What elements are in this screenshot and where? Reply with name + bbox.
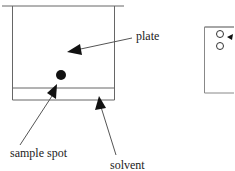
plate-arrow xyxy=(67,38,132,55)
developed-arrow-tip xyxy=(227,34,233,40)
developed-spot-1 xyxy=(217,31,224,38)
solvent-arrow xyxy=(95,96,116,155)
sample-spot xyxy=(56,70,66,80)
sample-spot-arrow xyxy=(20,84,57,145)
developed-plate xyxy=(205,27,235,93)
plate-label: plate xyxy=(136,30,159,42)
sample-spot-label: sample spot xyxy=(10,147,67,159)
developed-spot-2 xyxy=(217,43,224,50)
solvent-label: solvent xyxy=(110,159,145,171)
